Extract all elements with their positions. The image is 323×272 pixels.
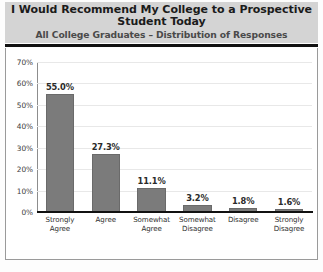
chart-title: I Would Recommend My College to a Prospe…	[11, 4, 312, 27]
x-axis-tick-label: Disagree	[220, 216, 266, 233]
x-axis-tick-label: StronglyAgree	[37, 216, 83, 233]
bar[interactable]	[46, 94, 74, 212]
header-divider	[5, 44, 318, 47]
bar-slot: 11.1%	[129, 62, 175, 212]
y-axis-tick-label: 70%	[17, 58, 33, 67]
y-axis-tick-label: 20%	[17, 165, 33, 174]
bar-slot: 3.2%	[174, 62, 220, 212]
x-axis-tick-label: SomewhatDisagree	[174, 216, 220, 233]
y-axis-tick-label: 60%	[17, 79, 33, 88]
bar-value-label: 27.3%	[92, 142, 120, 152]
y-axis-tick-label: 0%	[21, 208, 33, 217]
x-axis-category-labels: StronglyAgreeAgreeSomewhatAgreeSomewhatD…	[37, 216, 312, 233]
x-axis-line	[37, 211, 313, 213]
y-axis-tick-label: 30%	[17, 143, 33, 152]
y-axis-tick-label: 50%	[17, 100, 33, 109]
bar-slot: 27.3%	[83, 62, 129, 212]
bar-value-label: 1.8%	[232, 196, 254, 206]
chart-figure: I Would Recommend My College to a Prospe…	[0, 0, 323, 272]
bar-slot: 55.0%	[37, 62, 83, 212]
bar-value-label: 55.0%	[46, 82, 74, 92]
bar-value-label: 3.2%	[186, 193, 208, 203]
bar-value-label: 1.6%	[278, 197, 300, 207]
bar-series: 55.0%27.3%11.1%3.2%1.8%1.6%	[37, 62, 312, 212]
bar[interactable]	[92, 154, 120, 213]
bar-slot: 1.6%	[266, 62, 312, 212]
y-axis-tick-label: 40%	[17, 122, 33, 131]
y-axis-tick-label: 10%	[17, 186, 33, 195]
bar-slot: 1.8%	[220, 62, 266, 212]
chart-subtitle: All College Graduates – Distribution of …	[11, 29, 312, 40]
x-axis-tick-label: SomewhatAgree	[129, 216, 175, 233]
bar[interactable]	[137, 188, 165, 212]
x-axis-tick-label: StronglyDisagree	[266, 216, 312, 233]
x-axis-tick-label: Agree	[83, 216, 129, 233]
plot-area: 0%10%20%30%40%50%60%70% 55.0%27.3%11.1%3…	[37, 62, 312, 212]
bar-value-label: 11.1%	[138, 176, 166, 186]
chart-header: I Would Recommend My College to a Prospe…	[5, 2, 318, 43]
